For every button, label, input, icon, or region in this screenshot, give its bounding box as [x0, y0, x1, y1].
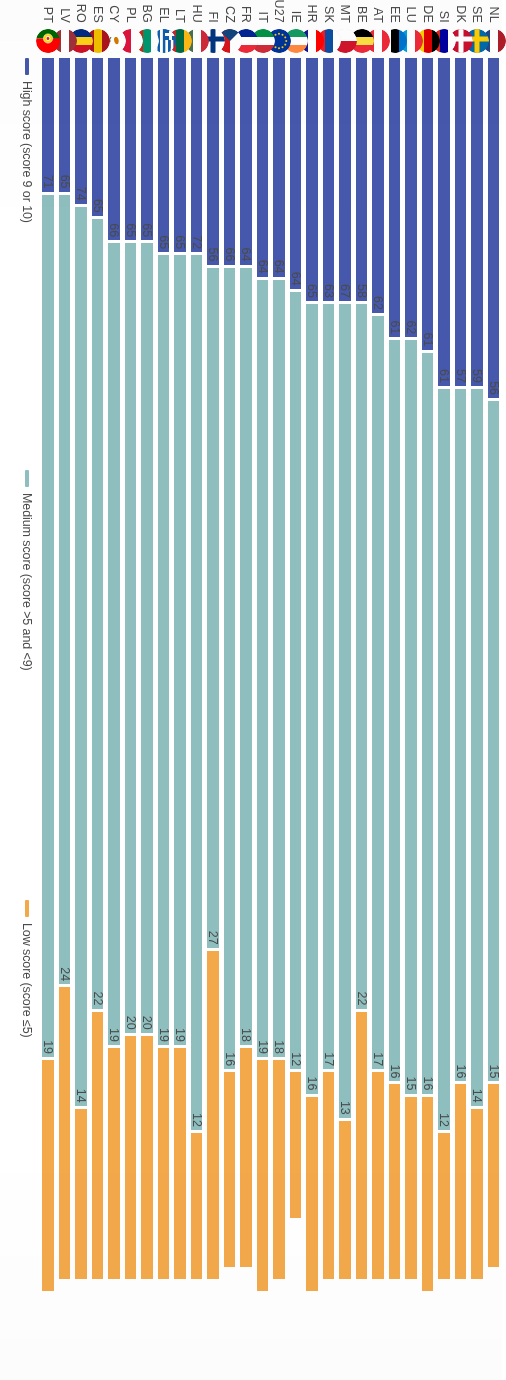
country-code: SE — [470, 6, 484, 23]
category-label-at: AT — [370, 0, 387, 58]
bar-value-low: 15 — [404, 1077, 418, 1091]
table-row: HU 167212 — [189, 0, 206, 1380]
table-row: CZ 176616 — [222, 0, 239, 1380]
country-code: SI — [437, 11, 451, 23]
bar-segment-high — [257, 58, 269, 277]
stacked-bar: 156520 — [139, 58, 156, 1380]
country-code: EL — [157, 7, 171, 23]
bar-value-low: 16 — [223, 1052, 237, 1066]
legend-label: Low score (score ≤5) — [20, 923, 34, 1038]
bar-value-low: 19 — [256, 1040, 270, 1054]
bar-segment-high — [488, 58, 500, 398]
bar-segment-medium — [208, 268, 220, 948]
bar-segment-low — [373, 1072, 385, 1279]
bar-value-medium: 57 — [454, 369, 468, 383]
bar-segment-medium — [43, 195, 55, 1058]
table-row: LT 166519 — [172, 0, 189, 1380]
category-label-de: DE — [420, 0, 437, 58]
bar-segment-medium — [472, 389, 484, 1106]
stacked-bar: 156619 — [106, 58, 123, 1380]
bar-segment-low — [224, 1072, 236, 1266]
bar-segment-low — [175, 1048, 187, 1279]
category-label-fi: FI — [205, 0, 222, 58]
country-code: EE — [388, 6, 402, 23]
stacked-bar: 186418 — [271, 58, 288, 1380]
legend-swatch-low-icon — [25, 900, 29, 917]
category-label-hu: HU — [189, 0, 206, 58]
bar-value-medium: 65 — [140, 223, 154, 237]
bar-segment-low — [455, 1084, 467, 1278]
legend-item-medium[interactable]: Medium score (score >5 and <9) — [20, 470, 34, 671]
bar-value-low: 27 — [206, 931, 220, 945]
bar-segment-medium — [356, 304, 368, 1009]
bar-segment-high — [389, 58, 401, 337]
country-code: HU — [190, 5, 204, 23]
bar-value-medium: 65 — [58, 175, 72, 189]
table-row: IT 186419 — [255, 0, 272, 1380]
table-row: EE 236116 — [387, 0, 404, 1380]
bar-value-low: 15 — [487, 1064, 501, 1078]
stacked-bar: 206516 — [304, 58, 321, 1380]
bar-segment-low — [274, 1060, 286, 1279]
bar-value-low: 22 — [91, 992, 105, 1006]
bar-segment-medium — [142, 243, 154, 1033]
category-label-fr: FR — [238, 0, 255, 58]
category-label-sk: SK — [321, 0, 338, 58]
country-code: IT — [256, 11, 270, 23]
bar-value-medium: 56 — [206, 248, 220, 262]
country-code: IE — [289, 11, 303, 23]
table-row: FR 176418 — [238, 0, 255, 1380]
bar-segment-high — [125, 58, 137, 240]
bar-value-medium: 62 — [371, 296, 385, 310]
bar-value-low: 12 — [190, 1113, 204, 1127]
country-code: RO — [74, 4, 88, 23]
bar-segment-low — [191, 1133, 203, 1279]
table-row: CY 156619 — [106, 0, 123, 1380]
country-code: AT — [371, 8, 385, 23]
bar-value-medium: 64 — [239, 248, 253, 262]
stacked-bar: 166519 — [156, 58, 173, 1380]
bar-segment-low — [488, 1084, 500, 1266]
stacked-bar: 285615 — [486, 58, 503, 1380]
bar-value-medium: 65 — [157, 235, 171, 249]
bar-segment-low — [92, 1012, 104, 1279]
bar-value-medium: 72 — [190, 235, 204, 249]
bar-segment-high — [142, 58, 154, 240]
bar-segment-medium — [439, 389, 451, 1130]
legend-item-high[interactable]: High score (score 9 or 10) — [20, 58, 34, 223]
bar-segment-medium — [290, 292, 302, 1069]
bar-value-low: 16 — [305, 1077, 319, 1091]
legend-item-low[interactable]: Low score (score ≤5) — [20, 900, 34, 1038]
legend-label: High score (score 9 or 10) — [20, 81, 34, 223]
bar-segment-high — [406, 58, 418, 337]
bar-segment-low — [422, 1097, 434, 1291]
stacked-bar: 206713 — [337, 58, 354, 1380]
bar-segment-low — [472, 1109, 484, 1279]
country-code: FR — [239, 6, 253, 23]
bar-segment-high — [175, 58, 187, 252]
bar-segment-medium — [307, 304, 319, 1094]
table-row: IE 196412 — [288, 0, 305, 1380]
bar-segment-low — [208, 951, 220, 1279]
category-label-lv: LV — [57, 0, 74, 58]
bar-segment-high — [340, 58, 352, 301]
bar-segment-medium — [274, 280, 286, 1057]
bar-segment-high — [191, 58, 203, 252]
bar-value-low: 13 — [338, 1101, 352, 1115]
bar-segment-low — [389, 1084, 401, 1278]
bar-value-low: 17 — [322, 1052, 336, 1066]
bar-segment-medium — [422, 353, 434, 1094]
bar-value-medium: 61 — [388, 320, 402, 334]
bar-value-low: 16 — [454, 1064, 468, 1078]
bar-value-medium: 64 — [256, 260, 270, 274]
table-row: EU27 186418 — [271, 0, 288, 1380]
stacked-bar: 196412 — [288, 58, 305, 1380]
bar-value-medium: 64 — [272, 260, 286, 274]
bar-segment-low — [109, 1048, 121, 1279]
category-label-nl: NL — [486, 0, 503, 58]
legend-label: Medium score (score >5 and <9) — [20, 493, 34, 671]
stacked-bar: 206317 — [321, 58, 338, 1380]
legend-swatch-high-icon — [25, 58, 29, 75]
bar-segment-low — [290, 1072, 302, 1218]
